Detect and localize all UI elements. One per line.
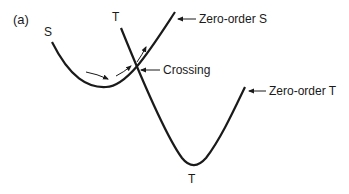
crossing-label: Crossing: [163, 64, 210, 76]
s-curve-label: S: [44, 26, 52, 38]
t-curve: [121, 28, 245, 165]
t-curve-label-top: T: [112, 11, 119, 23]
zero-order-s-label: Zero-order S: [199, 13, 267, 25]
panel-label: (a): [13, 13, 29, 26]
flow-arrow-icon: [86, 72, 108, 79]
zero-order-t-label: Zero-order T: [269, 85, 336, 97]
t-curve-label-bottom: T: [188, 173, 195, 185]
